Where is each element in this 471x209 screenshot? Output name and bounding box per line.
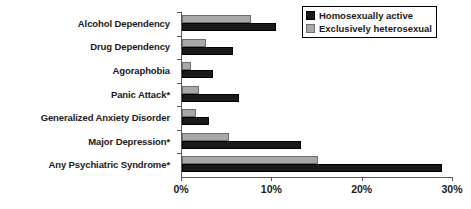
bar-homosexually-active	[182, 164, 442, 172]
legend: Homosexually active Exclusively heterose…	[302, 6, 437, 38]
category-label-major-depression: Major Depression*	[0, 137, 170, 147]
legend-item-exclusively-heterosexual: Exclusively heterosexual	[306, 22, 432, 35]
bar-homosexually-active	[182, 94, 239, 102]
bar-exclusively-heterosexual	[182, 156, 318, 164]
category-label-alcohol-dependency: Alcohol Dependency	[0, 19, 170, 29]
category-label-agoraphobia: Agoraphobia	[0, 66, 170, 76]
bar-exclusively-heterosexual	[182, 15, 251, 23]
y-axis-tick	[177, 12, 181, 13]
y-axis-tick	[177, 153, 181, 154]
bar-exclusively-heterosexual	[182, 39, 206, 47]
category-label-generalized-anxiety-disorder: Generalized Anxiety Disorder	[0, 113, 170, 123]
legend-swatch-icon-gray	[306, 24, 315, 33]
legend-label-exclusively-heterosexual: Exclusively heterosexual	[319, 23, 432, 34]
y-axis-tick	[177, 106, 181, 107]
bar-homosexually-active	[182, 23, 276, 31]
bar-exclusively-heterosexual	[182, 86, 199, 94]
x-axis-line	[181, 177, 452, 178]
legend-swatch-icon-black	[306, 11, 315, 20]
bar-chart: Alcohol Dependency Drug Dependency Agora…	[0, 0, 471, 209]
x-axis-tick-label: 30%	[441, 183, 462, 195]
bar-exclusively-heterosexual	[182, 62, 191, 70]
x-axis-tick	[271, 177, 272, 181]
x-axis-labels: 0%10%20%30%	[181, 183, 471, 199]
x-axis-tick	[452, 177, 453, 181]
bar-homosexually-active	[182, 117, 209, 125]
y-axis-tick	[177, 130, 181, 131]
x-axis-tick	[181, 177, 182, 181]
legend-label-homosexually-active: Homosexually active	[319, 10, 413, 21]
x-axis-tick	[362, 177, 363, 181]
bar-homosexually-active	[182, 47, 233, 55]
category-label-panic-attack: Panic Attack*	[0, 90, 170, 100]
x-axis-tick-label: 10%	[261, 183, 282, 195]
category-label-drug-dependency: Drug Dependency	[0, 42, 170, 52]
y-axis-tick	[177, 36, 181, 37]
category-axis: Alcohol Dependency Drug Dependency Agora…	[0, 12, 176, 177]
x-axis-tick-label: 0%	[173, 183, 188, 195]
bar-exclusively-heterosexual	[182, 109, 196, 117]
category-label-any-psychiatric-syndrome: Any Psychiatric Syndrome*	[0, 160, 170, 170]
legend-item-homosexually-active: Homosexually active	[306, 9, 432, 22]
bar-homosexually-active	[182, 70, 213, 78]
bar-homosexually-active	[182, 141, 301, 149]
y-axis-tick	[177, 83, 181, 84]
x-axis-tick-label: 20%	[351, 183, 372, 195]
y-axis-tick	[177, 59, 181, 60]
bar-exclusively-heterosexual	[182, 133, 229, 141]
